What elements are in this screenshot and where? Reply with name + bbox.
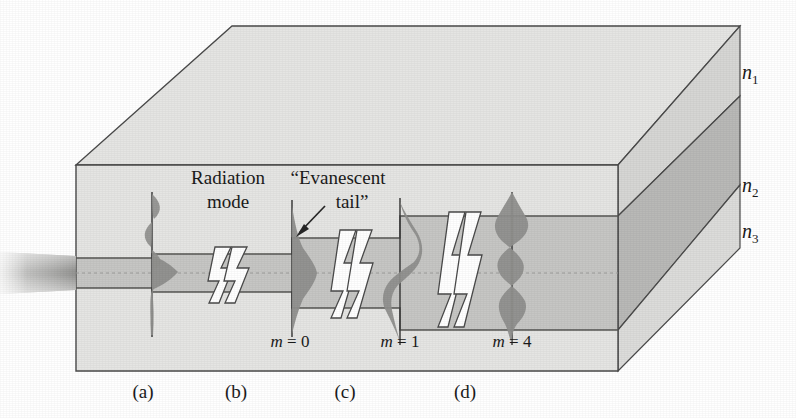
mode-label-m1: m = 1 (381, 332, 420, 351)
panel-label-b: (b) (225, 381, 247, 403)
panel-label-c: (c) (334, 381, 355, 403)
panel-label-d: (d) (454, 381, 476, 403)
waveguide-mode-figure: n1 n2 n3 Radiation mode “Evanescent tail… (0, 0, 796, 418)
panel-labels: (a) (b) (c) (d) (132, 381, 476, 403)
label-n1-text: n1 (742, 61, 759, 87)
figure-canvas: n1 n2 n3 Radiation mode “Evanescent tail… (0, 0, 796, 418)
mode-label-m0: m = 0 (271, 332, 310, 351)
radiation-mode-line1: Radiation (191, 167, 265, 188)
label-n2-text: n2 (742, 174, 759, 200)
label-n3-text: n3 (742, 220, 759, 246)
refractive-index-labels: n1 n2 n3 (742, 61, 759, 246)
input-beam (0, 252, 76, 294)
evanescent-tail-line2: tail” (336, 191, 369, 212)
panel-label-a: (a) (132, 381, 153, 403)
evanescent-tail-line1: “Evanescent (291, 167, 387, 188)
mode-label-m4: m = 4 (493, 332, 532, 351)
radiation-mode-line2: mode (207, 191, 249, 212)
